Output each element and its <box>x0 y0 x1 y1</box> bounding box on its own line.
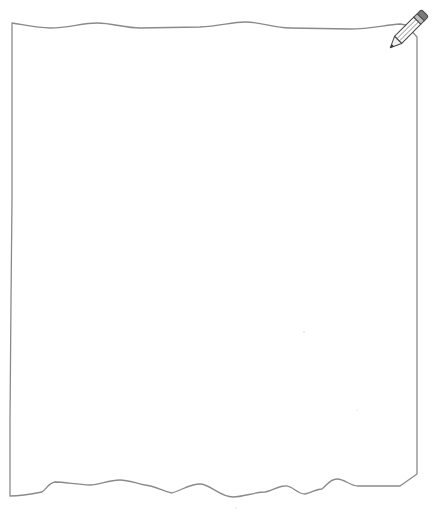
pencil-body <box>395 17 421 43</box>
paper-speck <box>356 409 357 410</box>
paper-speck <box>303 331 305 333</box>
paper-sheet-outline <box>10 22 417 497</box>
paper-sheet <box>0 0 437 513</box>
pencil-icon <box>380 2 436 58</box>
paper-speck <box>235 507 236 508</box>
